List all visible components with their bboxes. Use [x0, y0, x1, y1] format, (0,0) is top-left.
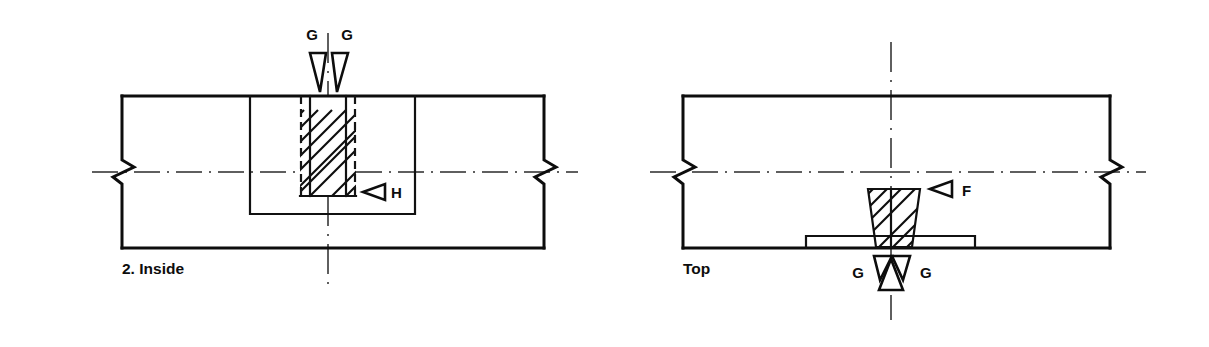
drawing-svg: G G H 2. Inside — [0, 0, 1209, 347]
engineering-drawing-canvas: G G H 2. Inside — [0, 0, 1209, 347]
caption-top: Top — [683, 260, 710, 277]
g-right-label: G — [341, 26, 353, 43]
g-left-label: G — [306, 26, 318, 43]
caption-inside: 2. Inside — [122, 260, 184, 277]
h-label: H — [391, 184, 402, 201]
canvas-background — [0, 0, 1209, 347]
g-bottom-left-label: G — [852, 264, 864, 281]
g-bottom-right-label: G — [920, 264, 932, 281]
f-label: F — [962, 182, 971, 199]
